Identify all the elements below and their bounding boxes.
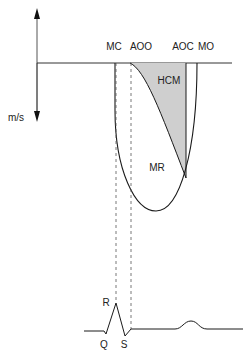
arrow-down-icon [34, 111, 40, 122]
axis-unit-label: m/s [8, 112, 24, 123]
label-aoo: AOO [130, 41, 152, 52]
ecg-label-q: Q [100, 339, 108, 350]
label-hcm: HCM [158, 75, 181, 86]
ecg-label-s: S [121, 339, 128, 350]
arrow-up-icon [34, 8, 40, 19]
label-mo: MO [198, 41, 214, 52]
ecg-label-r: R [102, 297, 109, 308]
doppler-diagram: MC AOO AOC MO HCM MR m/s R Q S [0, 0, 252, 353]
label-mc: MC [106, 41, 122, 52]
label-mr: MR [149, 162, 165, 173]
label-aoc: AOC [172, 41, 194, 52]
velocity-axis [34, 8, 40, 122]
